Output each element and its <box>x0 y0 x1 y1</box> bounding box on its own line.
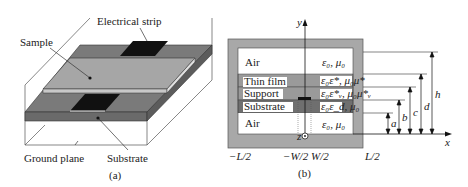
tick-neg-L2: −L/2 <box>229 150 252 162</box>
figure-canvas: Electrical strip Sample Ground plane Sub… <box>0 0 468 187</box>
tick-neg-W2: −W/2 <box>283 150 309 162</box>
dim-a-label: a <box>391 117 397 129</box>
substrate-label: Substrate <box>107 152 148 164</box>
z-axis-label: z <box>296 130 302 142</box>
layer-thin-film-props: ε₀ε*, μ₀μ* <box>321 74 365 86</box>
layer-thin-film-name: Thin film <box>244 75 286 87</box>
electrical-strip-label: Electrical strip <box>97 15 162 27</box>
layer-substrate-props: ε₀ε_d, μ₀ <box>321 100 360 112</box>
dim-b-label: b <box>402 111 408 123</box>
panel-b-caption: (b) <box>298 167 311 180</box>
layer-support-name: Support <box>244 87 279 99</box>
x-axis-label: x <box>444 136 450 148</box>
dim-c-label: c <box>413 106 418 118</box>
sample-label: Sample <box>20 36 53 48</box>
ground-plane-label: Ground plane <box>24 152 84 164</box>
panel-a-caption: (a) <box>109 169 122 182</box>
layer-support-props: ε₀ε*ᵥ, μ₀μ*ᵥ <box>321 87 371 99</box>
dim-d-label: d <box>424 100 430 112</box>
tick-L2: L/2 <box>364 150 380 162</box>
layer-air-bottom-name: Air <box>245 117 260 129</box>
layer-air-top-props: ε₀, μ₀ <box>322 56 345 68</box>
panel-a-drawing <box>25 18 212 150</box>
layer-air-bottom-props: ε₀, μ₀ <box>322 118 345 130</box>
tick-W2: W/2 <box>311 150 329 162</box>
layer-substrate-name: Substrate <box>244 100 285 112</box>
y-axis-label: y <box>296 16 302 28</box>
dim-h-label: h <box>435 88 441 100</box>
layer-air-top-name: Air <box>245 56 260 68</box>
